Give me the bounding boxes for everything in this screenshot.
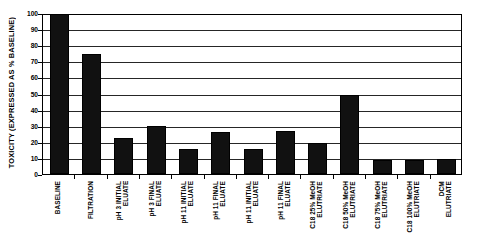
x-tick-mark [171, 175, 172, 179]
x-axis-label: C18 25% MeOHELUTRIATE [300, 181, 332, 247]
x-axis-label: pH 3 INITIALELUATE [107, 181, 139, 247]
y-tick-mark [38, 111, 42, 112]
bar-chart-figure: TOXICITY (EXPRESSED AS % BASELINE) 01020… [0, 0, 481, 247]
y-tick-label: 70 [31, 59, 38, 66]
x-tick-mark [333, 175, 334, 179]
x-tick-mark [107, 175, 108, 179]
y-tick-label: 30 [31, 123, 38, 130]
x-axis-label-text: C18 75% MeOHELUTRIATE [374, 181, 389, 229]
x-axis-label: BASELINE [42, 181, 74, 247]
x-axis-label: C18 75% MeOHELUTRIATE [365, 181, 397, 247]
x-axis-label-text: pH 11 FINALELUATE [277, 181, 292, 220]
x-axis-label-text: FILTRATION [87, 181, 94, 219]
y-tick-label: 10 [31, 156, 38, 163]
x-axis-label: C18 50% MeOHELUTRIATE [333, 181, 365, 247]
y-tick-mark [38, 46, 42, 47]
y-tick-label: 80 [31, 43, 38, 50]
x-axis-label-text: C18 25% MeOHELUTRIATE [309, 181, 324, 229]
y-tick-label: 20 [31, 140, 38, 147]
y-tick-label: 60 [31, 75, 38, 82]
y-tick-label: 90 [31, 27, 38, 34]
y-tick-mark [38, 62, 42, 63]
y-tick-mark [38, 159, 42, 160]
x-axis-label-text: pH 11 FINALELUATE [212, 181, 227, 220]
x-axis-label-text: pH 3 INITIALELUATE [115, 181, 130, 220]
y-tick-mark [38, 78, 42, 79]
x-axis-label-text: pH 11 INITIALELUATE [180, 181, 195, 224]
y-tick-mark [38, 95, 42, 96]
y-tick-label: 50 [31, 91, 38, 98]
x-axis-label-text: pH 11 INITIALELUATE [245, 181, 260, 224]
y-axis-title-text: TOXICITY (EXPRESSED AS % BASELINE) [7, 17, 16, 168]
y-axis-title: TOXICITY (EXPRESSED AS % BASELINE) [0, 0, 22, 185]
x-axis-label: pH 11 FINALELUATE [204, 181, 236, 247]
x-axis-label: pH 11 INITIALELUATE [236, 181, 268, 247]
y-tick-label: 100 [27, 11, 38, 18]
x-axis-label-text: pH 3 FINALELUATE [148, 181, 163, 216]
x-axis-label: pH 3 FINALELUATE [139, 181, 171, 247]
y-tick-label: 40 [31, 107, 38, 114]
x-tick-mark [74, 175, 75, 179]
y-tick-mark [38, 143, 42, 144]
x-tick-mark [268, 175, 269, 179]
x-tick-mark [236, 175, 237, 179]
x-axis-label: pH 11 INITIALELUATE [171, 181, 203, 247]
x-tick-mark [139, 175, 140, 179]
x-tick-mark [397, 175, 398, 179]
y-tick-mark [38, 127, 42, 128]
x-axis-label: C18 100% MeOHELUTRIATE [397, 181, 429, 247]
x-tick-mark [365, 175, 366, 179]
y-axis-tick-marks [42, 14, 462, 175]
x-axis-tick-marks [42, 175, 462, 180]
x-tick-mark [430, 175, 431, 179]
x-axis-label: FILTRATION [74, 181, 106, 247]
x-axis-label-text: C18 50% MeOHELUTRIATE [342, 181, 357, 229]
x-tick-mark [204, 175, 205, 179]
x-axis-label-text: DCMELUTRIATE [438, 181, 453, 217]
x-axis-label: pH 11 FINALELUATE [268, 181, 300, 247]
x-axis-labels: BASELINEFILTRATIONpH 3 INITIALELUATEpH 3… [42, 181, 462, 247]
x-axis-label-text: C18 100% MeOHELUTRIATE [406, 181, 421, 232]
x-tick-mark [300, 175, 301, 179]
y-tick-mark [38, 30, 42, 31]
x-axis-label: DCMELUTRIATE [430, 181, 462, 247]
x-axis-label-text: BASELINE [54, 181, 61, 214]
y-tick-mark [38, 14, 42, 15]
